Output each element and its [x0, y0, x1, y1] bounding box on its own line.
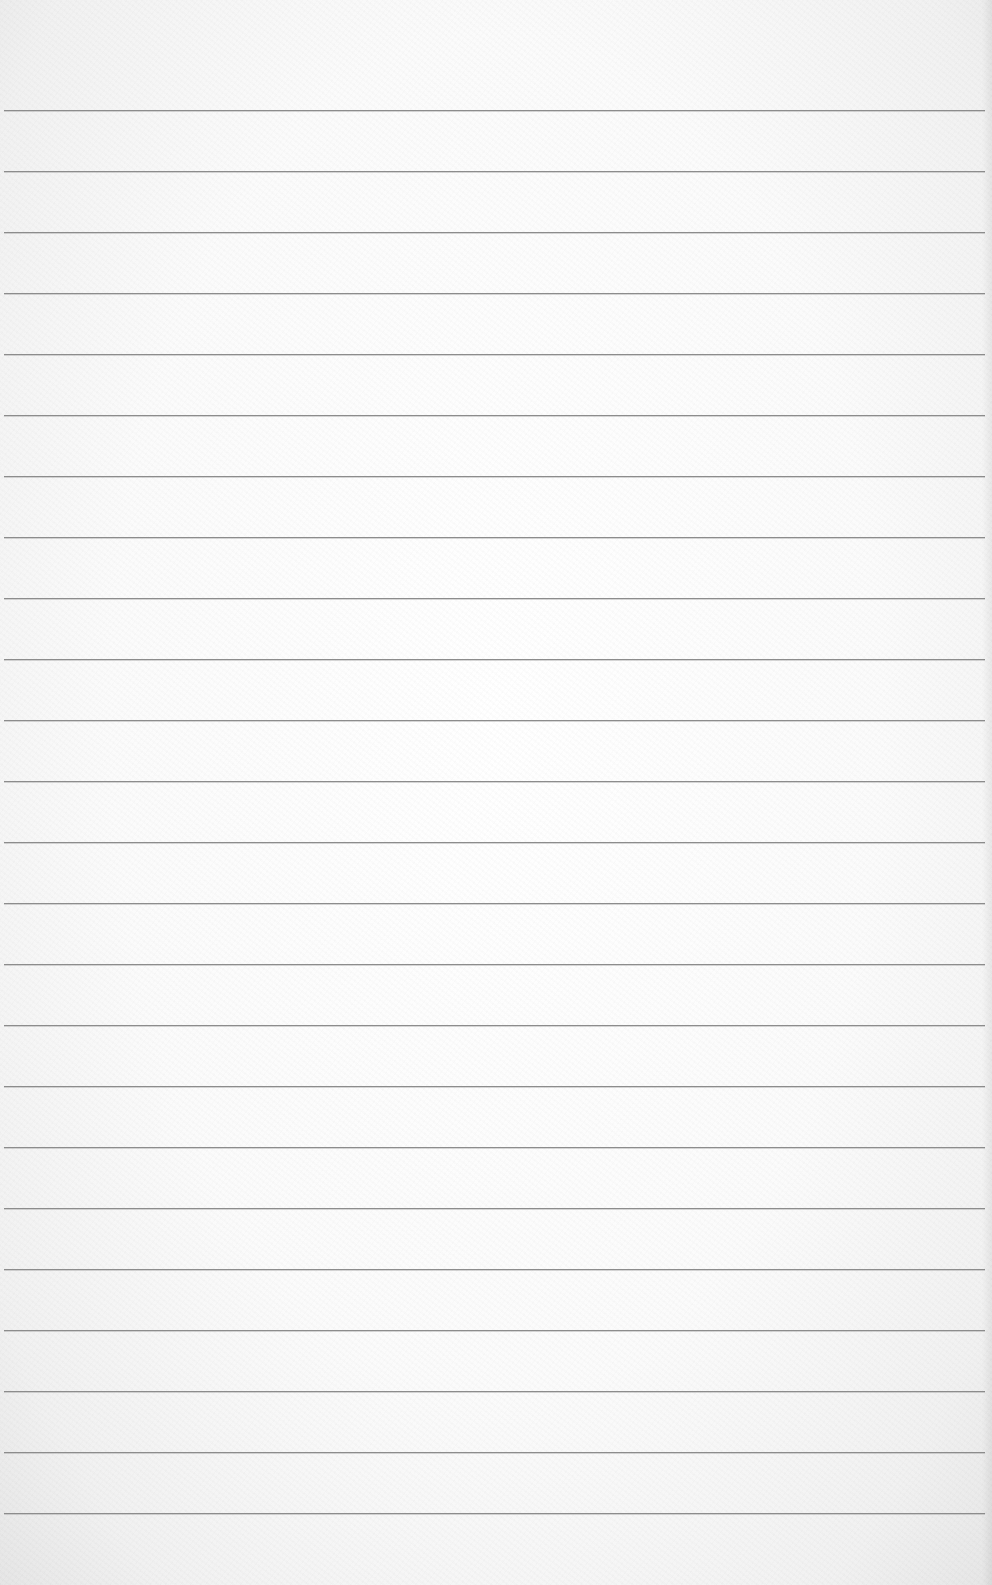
ruled-line	[4, 1208, 985, 1209]
ruled-line	[4, 1147, 985, 1148]
ruled-line	[4, 476, 985, 477]
ruled-line	[4, 903, 985, 904]
ruled-line	[4, 537, 985, 538]
ruled-line	[4, 354, 985, 355]
ruled-line	[4, 1025, 985, 1026]
ruled-line	[4, 964, 985, 965]
ruled-line	[4, 293, 985, 294]
ruled-line	[4, 659, 985, 660]
ruled-line	[4, 842, 985, 843]
ruled-line	[4, 598, 985, 599]
lined-paper-sheet	[0, 0, 992, 1585]
ruled-line	[4, 110, 985, 111]
ruled-line	[4, 781, 985, 782]
ruled-line	[4, 720, 985, 721]
ruled-line	[4, 1330, 985, 1331]
ruled-line	[4, 1452, 985, 1453]
ruled-line	[4, 1269, 985, 1270]
ruled-line	[4, 232, 985, 233]
ruled-line	[4, 415, 985, 416]
ruled-line	[4, 1391, 985, 1392]
ruled-line	[4, 1086, 985, 1087]
ruled-line	[4, 1513, 985, 1514]
ruled-line	[4, 171, 985, 172]
